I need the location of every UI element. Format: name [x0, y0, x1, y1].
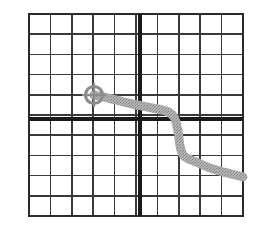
figure-root	[0, 0, 264, 226]
grid-plot-canvas	[0, 0, 264, 226]
